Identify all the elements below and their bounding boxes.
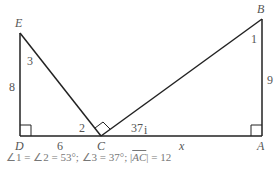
caption-length: | = 12	[146, 151, 171, 163]
caption-angles: ∠1 = ∠2 = 53°; ∠3 = 37°; |	[6, 151, 132, 163]
caption-segment-ac: AC	[132, 151, 146, 163]
point-label-e: E	[14, 16, 23, 30]
right-angle-mark-c	[95, 122, 110, 129]
point-label-b: B	[257, 2, 265, 16]
segment-cb	[101, 19, 262, 136]
segment-ec	[20, 33, 101, 136]
angle-label-2: 2	[79, 121, 85, 135]
angle-label-37-mark: i	[144, 123, 148, 137]
right-angle-mark-a	[251, 125, 262, 136]
side-label-ca: x	[178, 139, 185, 153]
angle-label-3: 3	[27, 54, 33, 68]
side-label-ab: 9	[267, 73, 273, 87]
caption: ∠1 = ∠2 = 53°; ∠3 = 37°; |AC| = 12	[6, 151, 171, 164]
side-label-ed: 8	[9, 80, 15, 94]
point-label-a: A	[256, 139, 265, 153]
geometry-diagram: E D C A B 8 6 x 9 1 2 3 37 i	[0, 0, 280, 172]
angle-label-37: 37	[131, 121, 143, 135]
right-angle-mark-d	[20, 125, 31, 136]
angle-label-1: 1	[251, 32, 257, 46]
